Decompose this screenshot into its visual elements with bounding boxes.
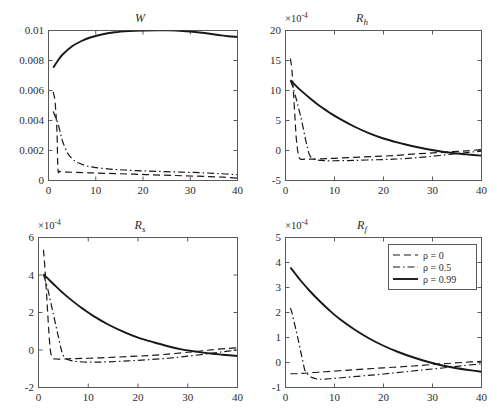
plot-title-group-rh: Rh — [355, 11, 368, 27]
y-tick-label-rf-3: 2 — [276, 306, 282, 318]
x-tick-label-rh-4: 40 — [476, 184, 488, 196]
y-tick-label-rf-0: -1 — [272, 381, 281, 393]
x-tick-label-rh-2: 20 — [378, 184, 390, 196]
subplot-w-svg: W 0 0.002 0.004 0.006 — [0, 0, 250, 208]
y-exponent-rf-base: ×10 — [285, 220, 301, 231]
series-line-rho-05-rh — [290, 81, 481, 161]
series-line-rho-099-rs — [43, 274, 237, 356]
x-tick-label-rh-0: 0 — [283, 184, 289, 196]
y-tick-label-rf-6: 5 — [276, 231, 282, 243]
x-tick-label-w-0: 0 — [46, 184, 52, 196]
y-ticks-w — [49, 31, 238, 181]
subplot-rh: Rh ×10-4 — [250, 0, 500, 208]
y-tick-label-w-0: 0 — [39, 174, 45, 186]
subplot-rf: Rf ×10-4 — [250, 207, 500, 415]
y-tick-label-rs-3: 4 — [29, 269, 35, 281]
y-exponent-rs: ×10-4 — [38, 218, 61, 231]
subplot-rs: Rs ×10-4 -2 0 — [0, 207, 250, 415]
subplot-title-rh: Rh — [355, 11, 368, 27]
subplot-rs-svg: Rs ×10-4 -2 0 — [0, 207, 250, 415]
subplot-title-w: W — [135, 11, 146, 25]
x-tick-label-rf-1: 10 — [329, 391, 341, 403]
subplot-title-rs-sub: s — [142, 224, 146, 234]
x-tick-label-w-2: 20 — [138, 184, 150, 196]
y-ticks-rh — [286, 31, 482, 181]
y-exponent-rh-sup: -4 — [301, 11, 307, 20]
y-tick-label-w-4: 0.008 — [19, 54, 44, 66]
y-tick-label-w-5: 0.01 — [25, 24, 44, 36]
series-line-rho-05-w — [53, 112, 237, 175]
svg-text:×10-4: ×10-4 — [285, 218, 308, 231]
y-exponent-rh: ×10-4 — [285, 11, 308, 24]
x-tick-label-rh-3: 30 — [427, 184, 439, 196]
y-tick-label-w-3: 0.006 — [19, 84, 44, 96]
x-tick-label-rf-2: 20 — [378, 391, 390, 403]
legend-label-rho-0: ρ = 0 — [423, 250, 444, 261]
y-tick-label-w-1: 0.002 — [19, 144, 44, 156]
x-tick-label-w-4: 40 — [232, 184, 244, 196]
figure-canvas: W 0 0.002 0.004 0.006 — [0, 0, 500, 415]
x-ticks-w — [49, 31, 238, 181]
series-line-rho-099-rh — [290, 80, 481, 155]
plot-title-group-rf: Rf — [356, 218, 368, 234]
y-tick-label-w-2: 0.004 — [19, 114, 44, 126]
series-line-rho-05-rf — [290, 308, 481, 379]
x-tick-label-w-3: 30 — [185, 184, 197, 196]
y-tick-label-rf-5: 4 — [276, 256, 282, 268]
x-tick-label-rh-1: 10 — [329, 184, 341, 196]
plot-title-group-rs: Rs — [134, 218, 146, 234]
subplot-title-rf-sub: f — [364, 224, 368, 234]
series-line-rho-0-rs — [43, 250, 237, 359]
x-tick-label-rf-0: 0 — [283, 391, 289, 403]
svg-text:×10-4: ×10-4 — [285, 11, 308, 24]
y-tick-label-rf-4: 3 — [276, 281, 282, 293]
y-tick-label-rs-4: 6 — [29, 231, 35, 243]
legend: ρ = 0 ρ = 0.5 ρ = 0.99 — [389, 245, 477, 290]
series-line-rho-0-w — [53, 92, 237, 178]
x-tick-label-rs-2: 20 — [133, 391, 145, 403]
x-tick-label-rs-1: 10 — [83, 391, 95, 403]
x-tick-label-w-1: 10 — [90, 184, 102, 196]
y-tick-label-rh-0: -5 — [272, 174, 282, 186]
subplot-title-rh-sub: h — [363, 17, 368, 27]
plot-title-group-w: W — [135, 11, 146, 25]
y-tick-label-rh-2: 5 — [276, 114, 282, 126]
x-tick-label-rf-4: 40 — [476, 391, 488, 403]
svg-text:×10-4: ×10-4 — [38, 218, 61, 231]
y-tick-label-rs-2: 2 — [29, 306, 35, 318]
y-exponent-rh-base: ×10 — [285, 13, 301, 24]
series-line-rho-0-rh — [290, 59, 481, 160]
x-tick-label-rs-4: 40 — [232, 391, 244, 403]
axis-frame-rs — [39, 238, 238, 388]
y-tick-label-rh-5: 20 — [270, 24, 282, 36]
axis-frame-w — [49, 31, 238, 181]
subplot-w: W 0 0.002 0.004 0.006 — [0, 0, 250, 208]
y-exponent-rf-sup: -4 — [301, 218, 307, 227]
x-tick-label-rs-0: 0 — [36, 391, 42, 403]
subplot-title-rs: Rs — [134, 218, 146, 234]
y-tick-label-rf-1: 0 — [276, 356, 282, 368]
legend-label-rho-099: ρ = 0.99 — [423, 274, 456, 285]
y-tick-label-rf-2: 1 — [276, 331, 282, 343]
series-line-rho-05-rs — [43, 275, 237, 362]
y-ticks-rs — [39, 238, 238, 388]
x-ticks-rs — [39, 238, 238, 388]
x-ticks-rh — [286, 31, 482, 181]
subplot-title-rf: Rf — [356, 218, 368, 234]
y-tick-label-rh-4: 15 — [270, 54, 282, 66]
y-exponent-rs-base: ×10 — [38, 220, 54, 231]
subplot-rh-svg: Rh ×10-4 — [250, 0, 500, 208]
x-tick-label-rf-3: 30 — [427, 391, 439, 403]
y-tick-label-rs-1: 0 — [29, 344, 35, 356]
y-tick-label-rs-0: -2 — [25, 381, 34, 393]
axis-frame-rh — [286, 31, 482, 181]
x-tick-label-rs-3: 30 — [182, 391, 194, 403]
subplot-rf-svg: Rf ×10-4 — [250, 207, 500, 415]
y-exponent-rf: ×10-4 — [285, 218, 308, 231]
legend-label-rho-05: ρ = 0.5 — [423, 262, 451, 273]
y-tick-label-rh-1: 0 — [276, 144, 282, 156]
y-tick-label-rh-3: 10 — [270, 84, 282, 96]
series-line-rho-099-w — [53, 30, 237, 67]
y-exponent-rs-sup: -4 — [54, 218, 60, 227]
